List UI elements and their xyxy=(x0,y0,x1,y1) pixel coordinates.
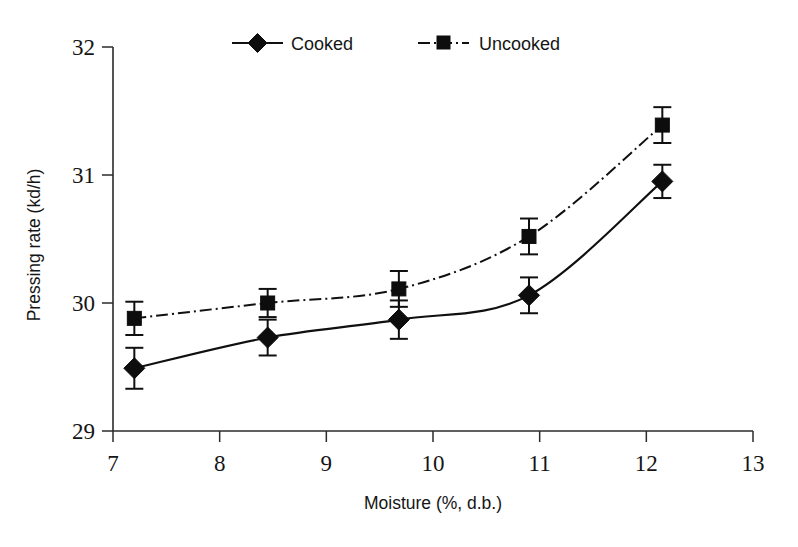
x-axis-ticks: 78910111213 xyxy=(107,431,764,476)
data-point-diamond xyxy=(124,358,145,379)
data-point-square xyxy=(261,296,275,310)
x-tick-label: 12 xyxy=(635,451,658,476)
x-tick-label: 10 xyxy=(422,451,445,476)
x-tick-label: 7 xyxy=(107,451,119,476)
x-tick-label: 13 xyxy=(742,451,765,476)
data-point-diamond xyxy=(519,285,540,306)
legend-item-cooked: Cooked xyxy=(232,34,353,55)
data-point-square xyxy=(522,229,536,243)
y-axis-ticks: 29303132 xyxy=(72,35,113,444)
chart-figure: 29303132 78910111213 Cooked Uncooked xyxy=(0,0,798,547)
x-tick-label: 8 xyxy=(214,451,226,476)
legend-cooked-diamond-icon xyxy=(248,34,267,53)
uncooked-markers xyxy=(127,118,669,325)
data-point-square xyxy=(127,311,141,325)
data-point-square xyxy=(392,282,406,296)
y-tick-label: 32 xyxy=(72,35,95,60)
y-tick-label: 31 xyxy=(72,163,95,188)
legend-uncooked-square-icon xyxy=(437,36,450,49)
axis-group xyxy=(113,47,753,431)
x-tick-label: 11 xyxy=(529,451,551,476)
x-tick-label: 9 xyxy=(321,451,333,476)
y-tick-label: 30 xyxy=(72,291,95,316)
legend-item-uncooked: Uncooked xyxy=(418,34,560,54)
y-axis-title: Pressing rate (kd/h) xyxy=(24,169,44,322)
legend-label-uncooked: Uncooked xyxy=(479,34,560,54)
data-point-diamond xyxy=(388,309,409,330)
data-point-square xyxy=(655,118,669,132)
chart-canvas: 29303132 78910111213 Cooked Uncooked xyxy=(0,0,798,547)
x-axis-title: Moisture (%, d.b.) xyxy=(364,493,502,513)
legend-label-cooked: Cooked xyxy=(291,34,353,54)
data-point-diamond xyxy=(257,327,278,348)
chart-legend: Cooked Uncooked xyxy=(232,34,560,55)
y-tick-label: 29 xyxy=(72,419,95,444)
